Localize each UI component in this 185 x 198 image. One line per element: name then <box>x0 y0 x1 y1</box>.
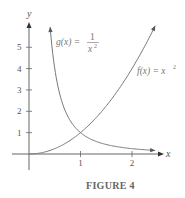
y-tick-label: 1 <box>17 128 22 138</box>
figure-chart: x y 1212345 g(x) = 1 x 2 f(x) = x 2 FIGU… <box>0 0 185 198</box>
g-label-denominator-sup: 2 <box>94 43 97 49</box>
y-axis-arrow-icon <box>27 22 32 28</box>
y-tick-label: 2 <box>17 106 22 116</box>
y-axis-label: y <box>26 8 32 19</box>
y-tick-label: 4 <box>17 64 22 74</box>
g-label-numerator: 1 <box>90 32 95 42</box>
g-curve-arrow-icon <box>48 27 52 32</box>
x-tick-label: 1 <box>78 158 83 168</box>
x-tick-label: 2 <box>130 158 135 168</box>
figure-caption: FIGURE 4 <box>86 180 135 191</box>
ticks: 1212345 <box>17 42 134 168</box>
label-g: g(x) = 1 x 2 <box>56 32 99 54</box>
x-axis-label: x <box>165 148 171 159</box>
x-axis-arrow-icon <box>158 152 164 157</box>
f-label-sup: 2 <box>173 64 176 70</box>
g-curve-arrow-icon <box>150 148 155 152</box>
label-f: f(x) = x 2 <box>137 64 176 77</box>
y-tick-label: 5 <box>17 42 22 52</box>
f-label-main: f(x) = x <box>137 66 166 77</box>
y-tick-label: 3 <box>17 85 22 95</box>
g-label-denominator: x <box>87 44 93 54</box>
g-label-main: g(x) = <box>56 37 80 48</box>
